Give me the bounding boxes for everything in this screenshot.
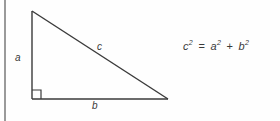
figure-canvas: a c b c2 = a2 + b2 xyxy=(0,0,280,121)
equation-exponent-c: 2 xyxy=(189,39,193,46)
side-label-c: c xyxy=(97,42,102,52)
pythagorean-equation: c2 = a2 + b2 xyxy=(183,40,249,52)
equation-term-a: a2 xyxy=(210,40,221,52)
right-angle-marker xyxy=(32,90,41,99)
equation-exponent-a: 2 xyxy=(217,39,221,46)
triangle-hypotenuse-c xyxy=(32,11,168,99)
equation-exponent-b: 2 xyxy=(245,39,249,46)
equation-equals-sign: = xyxy=(196,40,207,52)
equation-plus-sign: + xyxy=(224,40,235,52)
right-triangle-diagram xyxy=(0,0,280,121)
side-label-a: a xyxy=(15,53,21,63)
side-label-b: b xyxy=(92,101,98,111)
equation-term-c: c2 xyxy=(183,40,193,52)
equation-term-b: b2 xyxy=(239,40,250,52)
